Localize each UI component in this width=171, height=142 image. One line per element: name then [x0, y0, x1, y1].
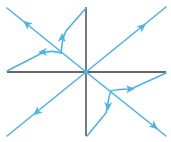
equilibrium-point	[84, 70, 88, 74]
trajectory-upper-left-left	[7, 52, 61, 72]
trajectory-toward-top-right	[86, 7, 166, 72]
phase-portrait-diagram	[0, 0, 171, 142]
trajectory-lower-right-right	[111, 73, 166, 91]
trajectory-lower-right-down	[87, 91, 111, 136]
trajectory-toward-top-left	[7, 8, 86, 72]
trajectory-toward-bottom-left	[7, 72, 86, 136]
trajectory-upper-left-up	[61, 8, 86, 53]
